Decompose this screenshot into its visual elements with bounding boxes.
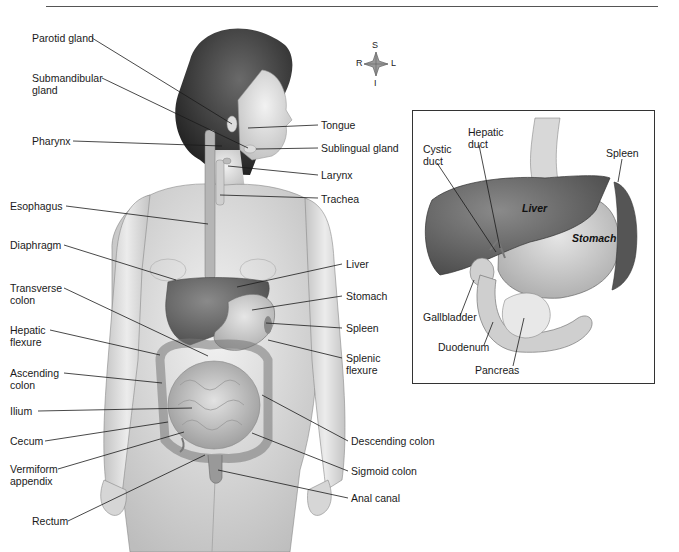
label-diaphragm: Diaphragm: [10, 239, 61, 251]
trachea: [216, 160, 224, 205]
label-parotid-gland: Parotid gland: [32, 32, 94, 44]
label-ilium: Ilium: [10, 405, 32, 417]
inset-organ-liver: Liver: [522, 202, 547, 214]
sublingual-gland: [244, 145, 256, 153]
label-vermiform-appendix: Vermiform appendix: [10, 463, 58, 487]
label-transverse-colon: Transverse colon: [10, 282, 62, 306]
inset-label-duodenum: Duodenum: [438, 341, 489, 353]
compass-inferior: I: [374, 78, 377, 88]
label-hepatic-flexure: Hepatic flexure: [10, 324, 46, 348]
label-spleen: Spleen: [346, 322, 379, 334]
larynx: [223, 158, 231, 164]
label-cecum: Cecum: [10, 435, 43, 447]
label-ascending-colon: Ascending colon: [10, 367, 59, 391]
label-stomach: Stomach: [346, 290, 387, 302]
label-descending-colon: Descending colon: [351, 435, 434, 447]
small-intestine: [168, 361, 260, 449]
inset-label-cystic-duct: Cystic duct: [423, 143, 452, 167]
label-splenic-flexure: Splenic flexure: [346, 352, 380, 376]
inset-organ-stomach: Stomach: [572, 232, 616, 244]
label-esophagus: Esophagus: [10, 200, 63, 212]
inset-label-gallbladder: Gallbladder: [423, 311, 477, 323]
label-trachea: Trachea: [321, 193, 359, 205]
rectum: [208, 455, 222, 483]
label-anal-canal: Anal canal: [351, 492, 400, 504]
label-sublingual-gland: Sublingual gland: [321, 142, 399, 154]
label-rectum: Rectum: [32, 515, 68, 527]
compass-left: L: [391, 58, 396, 68]
compass-rose: [364, 52, 388, 76]
label-tongue: Tongue: [321, 119, 355, 131]
compass-superior: S: [372, 40, 378, 50]
spleen: [264, 316, 272, 334]
inset-label-spleen: Spleen: [606, 147, 639, 159]
inset-label-pancreas: Pancreas: [475, 364, 519, 376]
label-larynx: Larynx: [321, 169, 353, 181]
label-sigmoid-colon: Sigmoid colon: [351, 465, 417, 477]
label-pharynx: Pharynx: [32, 135, 71, 147]
label-liver: Liver: [346, 258, 369, 270]
esophagus: [205, 130, 215, 280]
compass-right: R: [356, 58, 363, 68]
label-submandibular-gland: Submandibular gland: [32, 72, 103, 96]
inset-label-hepatic-duct: Hepatic duct: [468, 126, 504, 150]
